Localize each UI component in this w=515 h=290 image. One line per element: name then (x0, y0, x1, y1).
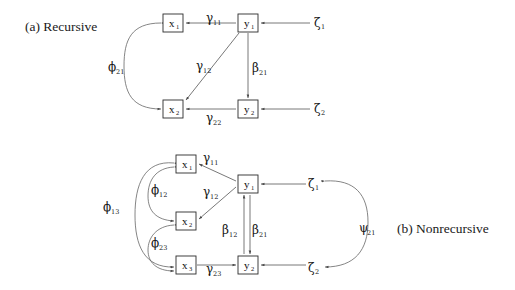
node-a-zeta2-label: ζ (314, 102, 321, 116)
figure-canvas: (a) Recursive x 1 x 2 y 1 (0, 0, 515, 290)
path-diagram-svg: (a) Recursive x 1 x 2 y 1 (0, 0, 515, 290)
node-b-x2-subscript: 2 (189, 221, 192, 228)
node-b-zeta1-subscript: 1 (315, 184, 319, 192)
edge-b-gamma12-subscript: 12 (210, 193, 218, 201)
node-a-y2-label: y (244, 103, 250, 115)
edge-a-gamma12-line (186, 33, 239, 100)
node-a-x1-subscript: 1 (176, 23, 179, 30)
node-b-x2-label: x (182, 215, 188, 227)
node-b-y2-label: y (244, 259, 250, 271)
node-a-zeta1-subscript: 1 (321, 23, 325, 31)
node-a-y1-label: y (244, 17, 250, 29)
edge-b-gamma11-subscript: 11 (210, 159, 218, 167)
node-b-zeta2-label: ζ (308, 261, 315, 275)
node-b-y1-label: y (244, 178, 250, 190)
edge-b-phi12-label: ϕ (151, 183, 159, 197)
edge-a-phi21-curve (124, 23, 161, 109)
edge-a-gamma11-subscript: 11 (213, 19, 221, 27)
edge-b-beta12-label: β (222, 223, 229, 237)
node-b-y2-subscript: 2 (251, 265, 254, 272)
edge-b-beta21-subscript: 21 (259, 231, 267, 239)
node-a-x1-label: x (169, 17, 175, 29)
node-b-x3-subscript: 3 (189, 265, 192, 272)
edge-b-phi23-subscript: 23 (159, 244, 167, 252)
edge-b-phi13-label: ϕ (103, 200, 111, 214)
edge-a-phi21-subscript: 21 (116, 68, 124, 76)
node-b-x1-subscript: 1 (189, 164, 192, 171)
edge-b-beta12-subscript: 12 (229, 231, 237, 239)
edge-b-psi21-subscript: 21 (367, 229, 375, 237)
edge-b-phi13-subscript: 13 (111, 208, 119, 216)
node-a-zeta2-subscript: 2 (321, 109, 325, 117)
node-a-y2-subscript: 2 (251, 109, 254, 116)
edge-a-beta21-subscript: 21 (259, 69, 267, 77)
node-a-x2-label: x (169, 103, 175, 115)
node-a-x2-subscript: 2 (176, 109, 179, 116)
edge-b-phi23-label: ϕ (151, 236, 159, 250)
edge-b-phi13-curve (135, 163, 174, 267)
panel-a-caption: (a) Recursive (25, 19, 97, 34)
node-b-y1-subscript: 1 (251, 184, 254, 191)
edge-b-beta21-label: β (252, 223, 259, 237)
edge-b-phi12-subscript: 12 (159, 191, 167, 199)
panel-b-group: (b) Nonrecursive (103, 151, 489, 278)
node-a-y1-subscript: 1 (251, 23, 254, 30)
node-b-x1-label: x (182, 158, 188, 170)
edge-a-beta21-label: β (252, 61, 259, 75)
panel-a-group: (a) Recursive x 1 x 2 y 1 (25, 11, 325, 127)
panel-b-caption: (b) Nonrecursive (397, 221, 489, 236)
edge-a-phi21-label: ϕ (108, 60, 116, 74)
edge-a-gamma12-subscript: 12 (203, 67, 211, 75)
edge-a-gamma22-subscript: 22 (213, 119, 221, 127)
node-a-zeta1-label: ζ (314, 16, 321, 30)
node-b-zeta2-subscript: 2 (315, 268, 319, 276)
node-b-zeta1-label: ζ (308, 177, 315, 191)
node-b-x3-label: x (182, 259, 188, 271)
edge-b-gamma23-subscript: 23 (213, 270, 221, 278)
